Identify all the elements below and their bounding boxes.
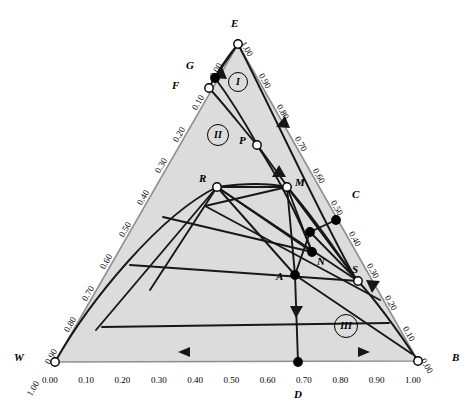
point-marker-A — [291, 271, 299, 279]
point-marker-R — [213, 183, 221, 191]
point-marker-D — [294, 358, 302, 366]
point-marker-N — [308, 248, 316, 256]
point-marker-M — [283, 183, 291, 191]
point-marker-G — [211, 74, 219, 82]
vertex-marker-B — [414, 357, 422, 365]
point-marker-F — [205, 84, 213, 92]
point-marker-P — [253, 141, 261, 149]
point-marker-C — [332, 216, 340, 224]
ternary-diagram-figure: E W B G F P R M C N A S D I II III 0.000… — [0, 0, 468, 409]
vertex-marker-W — [51, 358, 59, 366]
point-marker-K — [306, 228, 314, 236]
marker-layer — [0, 0, 468, 409]
vertex-marker-E — [234, 40, 242, 48]
point-marker-S — [354, 277, 362, 285]
